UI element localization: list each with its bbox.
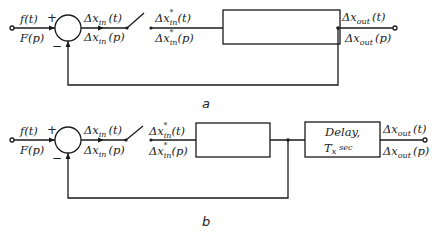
- arrow-icon: [66, 41, 71, 47]
- output-label-laplace: Δxout(p): [382, 144, 429, 160]
- plus-sign: +: [47, 123, 57, 137]
- error-label-time: Δxin(t): [83, 123, 122, 139]
- minus-sign: −: [52, 151, 62, 165]
- summing-junction-a: [55, 15, 81, 41]
- plus-sign: +: [47, 11, 57, 25]
- arrow-icon: [66, 153, 71, 159]
- caption-b: b: [202, 214, 210, 229]
- input-label-time: f(t): [19, 124, 38, 138]
- arrow-icon: [49, 138, 55, 143]
- output-terminal-b: [423, 138, 427, 142]
- input-terminal-a: [10, 26, 14, 30]
- error-label-laplace: Δxin(p): [83, 143, 125, 159]
- caption-a: a: [202, 96, 210, 111]
- delay-time-label: Txsec: [324, 141, 353, 156]
- sampled-label-laplace: Δxin*(p): [148, 141, 188, 160]
- sampler-switch-b: [126, 126, 143, 140]
- arrow-icon: [49, 26, 55, 31]
- plant-block-a: [223, 10, 340, 44]
- output-terminal-a: [393, 26, 397, 30]
- sampler-switch-a: [127, 13, 144, 28]
- sampled-label-time: Δxin*(t): [154, 8, 191, 27]
- input-label-laplace: F(p): [19, 31, 44, 45]
- summing-junction-b: [55, 127, 81, 153]
- input-label-time: f(t): [19, 12, 38, 26]
- output-label-time: Δxout(t): [341, 10, 386, 26]
- output-label-laplace: Δxout(p): [344, 31, 391, 47]
- output-label-time: Δxout(t): [382, 122, 427, 138]
- error-label-time: Δxin(t): [83, 11, 122, 27]
- block-diagrams: f(t) + F(p) − Δxin(t) Δxin(p) Δxin*(t) Δ…: [0, 0, 441, 233]
- diagram-b: f(t) + F(p) − Δxin(t) Δxin(p) Δxin*(t) Δ…: [10, 121, 429, 229]
- sampled-label-laplace: Δxin*(p): [154, 28, 194, 47]
- error-label-laplace: Δxin(p): [83, 30, 125, 46]
- sampled-label-time: Δxin*(t): [148, 121, 185, 140]
- delay-label: Delay,: [324, 125, 360, 139]
- diagram-a: f(t) + F(p) − Δxin(t) Δxin(p) Δxin*(t) Δ…: [10, 8, 397, 111]
- minus-sign: −: [52, 39, 62, 53]
- input-terminal-b: [10, 138, 14, 142]
- plant-block-b: [196, 123, 270, 157]
- input-label-laplace: F(p): [19, 143, 44, 157]
